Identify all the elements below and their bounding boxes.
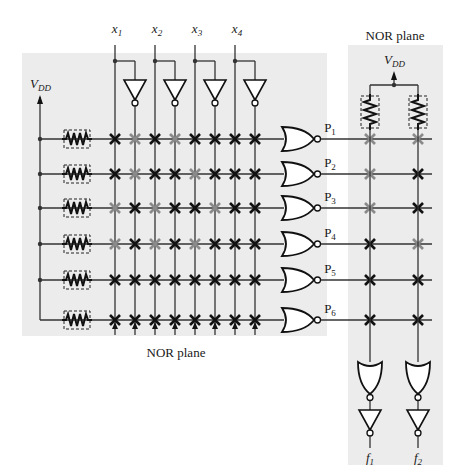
- right-plane-title: NOR plane: [366, 28, 425, 43]
- product-label-p4: P4: [324, 225, 336, 242]
- product-label-p6: P6: [324, 301, 336, 318]
- right-nor-plane-background: [348, 45, 443, 465]
- input-label-x4: x4: [231, 21, 243, 38]
- product-label-p1: P1: [324, 120, 336, 137]
- input-label-x1: x1: [111, 21, 122, 38]
- product-label-p5: P5: [324, 261, 336, 278]
- product-label-p2: P2: [324, 155, 336, 172]
- input-label-x2: x2: [151, 21, 163, 38]
- pla-diagram: NOR plane NOR plane VDD VDD x1x2x3x4P1P2…: [0, 0, 457, 468]
- left-plane-title: NOR plane: [147, 345, 206, 360]
- product-label-p3: P3: [324, 189, 336, 206]
- input-label-x3: x3: [191, 21, 203, 38]
